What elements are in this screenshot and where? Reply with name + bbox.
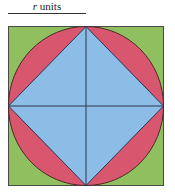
geometry-diagram	[0, 0, 175, 193]
